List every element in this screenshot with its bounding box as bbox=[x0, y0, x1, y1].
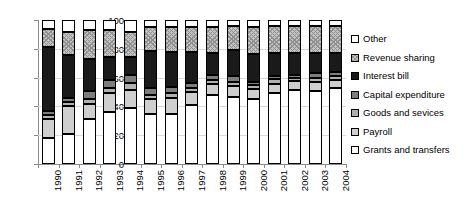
stacked-bar[interactable] bbox=[247, 20, 260, 164]
bar-segment[interactable] bbox=[124, 83, 137, 89]
bar-segment[interactable] bbox=[83, 30, 96, 59]
legend-item[interactable]: Other bbox=[351, 30, 468, 49]
stacked-bar[interactable] bbox=[268, 20, 281, 164]
bar-segment[interactable] bbox=[329, 72, 342, 76]
bar-segment[interactable] bbox=[185, 83, 198, 87]
bar-segment[interactable] bbox=[83, 119, 96, 164]
bar-segment[interactable] bbox=[206, 20, 219, 27]
bar-segment[interactable] bbox=[124, 57, 137, 76]
stacked-bar[interactable] bbox=[309, 20, 322, 164]
bar-segment[interactable] bbox=[165, 114, 178, 164]
bar-segment[interactable] bbox=[144, 20, 157, 27]
bar-segment[interactable] bbox=[309, 82, 322, 91]
bar-segment[interactable] bbox=[206, 53, 219, 75]
bar-segment[interactable] bbox=[309, 26, 322, 53]
bar-segment[interactable] bbox=[185, 27, 198, 51]
bar-segment[interactable] bbox=[144, 88, 157, 95]
bar-segment[interactable] bbox=[268, 20, 281, 26]
bar-segment[interactable] bbox=[185, 105, 198, 164]
bar-segment[interactable] bbox=[124, 90, 137, 108]
bar-segment[interactable] bbox=[42, 20, 55, 29]
stacked-bar[interactable] bbox=[83, 20, 96, 164]
bar-segment[interactable] bbox=[227, 86, 240, 97]
bar-segment[interactable] bbox=[288, 78, 301, 82]
bar-segment[interactable] bbox=[144, 95, 157, 99]
stacked-bar[interactable] bbox=[103, 20, 116, 164]
bar-segment[interactable] bbox=[42, 119, 55, 138]
bar-segment[interactable] bbox=[288, 26, 301, 53]
bar-segment[interactable] bbox=[247, 27, 260, 54]
bar-segment[interactable] bbox=[62, 106, 75, 134]
bar-segment[interactable] bbox=[124, 108, 137, 164]
bar-segment[interactable] bbox=[124, 20, 137, 32]
stacked-bar[interactable] bbox=[42, 20, 55, 164]
bar-segment[interactable] bbox=[103, 112, 116, 164]
bar-segment[interactable] bbox=[83, 91, 96, 100]
bar-segment[interactable] bbox=[247, 89, 260, 99]
bar-segment[interactable] bbox=[268, 93, 281, 164]
bar-segment[interactable] bbox=[144, 99, 157, 114]
bar-segment[interactable] bbox=[268, 76, 281, 79]
bar-segment[interactable] bbox=[227, 20, 240, 26]
bar-segment[interactable] bbox=[329, 80, 342, 89]
bar-segment[interactable] bbox=[42, 111, 55, 115]
bar-segment[interactable] bbox=[227, 82, 240, 86]
bar-segment[interactable] bbox=[165, 52, 178, 87]
bar-segment[interactable] bbox=[268, 79, 281, 84]
bar-segment[interactable] bbox=[185, 20, 198, 27]
stacked-bar[interactable] bbox=[62, 20, 75, 164]
bar-segment[interactable] bbox=[309, 78, 322, 82]
bar-segment[interactable] bbox=[185, 52, 198, 84]
bar-segment[interactable] bbox=[185, 88, 198, 92]
bar-segment[interactable] bbox=[206, 84, 219, 95]
bar-segment[interactable] bbox=[165, 93, 178, 98]
bar-segment[interactable] bbox=[62, 98, 75, 102]
bar-segment[interactable] bbox=[185, 92, 198, 105]
bar-segment[interactable] bbox=[288, 75, 301, 78]
bar-segment[interactable] bbox=[165, 87, 178, 93]
bar-segment[interactable] bbox=[62, 20, 75, 32]
stacked-bar[interactable] bbox=[165, 20, 178, 164]
bar-segment[interactable] bbox=[247, 85, 260, 89]
legend-item[interactable]: Grants and transfers bbox=[351, 141, 468, 160]
stacked-bar[interactable] bbox=[206, 20, 219, 164]
bar-segment[interactable] bbox=[288, 90, 301, 164]
bar-segment[interactable] bbox=[103, 20, 116, 30]
bar-segment[interactable] bbox=[83, 99, 96, 104]
bar-segment[interactable] bbox=[288, 53, 301, 75]
bar-segment[interactable] bbox=[227, 76, 240, 82]
legend-item[interactable]: Payroll bbox=[351, 123, 468, 142]
bar-segment[interactable] bbox=[124, 75, 137, 83]
bar-segment[interactable] bbox=[227, 26, 240, 50]
bar-segment[interactable] bbox=[42, 115, 55, 119]
bar-segment[interactable] bbox=[268, 84, 281, 93]
bar-segment[interactable] bbox=[62, 55, 75, 97]
bar-segment[interactable] bbox=[103, 57, 116, 79]
bar-segment[interactable] bbox=[268, 53, 281, 76]
bar-segment[interactable] bbox=[62, 32, 75, 56]
bar-segment[interactable] bbox=[329, 88, 342, 164]
bar-segment[interactable] bbox=[42, 47, 55, 111]
bar-segment[interactable] bbox=[144, 51, 157, 88]
bar-segment[interactable] bbox=[206, 75, 219, 80]
legend-item[interactable]: Goods and sevices bbox=[351, 104, 468, 123]
legend-item[interactable]: Capital expenditure bbox=[351, 86, 468, 105]
bar-segment[interactable] bbox=[103, 80, 116, 88]
bar-segment[interactable] bbox=[62, 102, 75, 106]
stacked-bar[interactable] bbox=[288, 20, 301, 164]
bar-segment[interactable] bbox=[227, 50, 240, 76]
bar-segment[interactable] bbox=[206, 80, 219, 84]
bar-segment[interactable] bbox=[329, 26, 342, 53]
bar-segment[interactable] bbox=[42, 138, 55, 164]
bar-segment[interactable] bbox=[329, 20, 342, 26]
bar-segment[interactable] bbox=[144, 114, 157, 164]
legend-item[interactable]: Interest bill bbox=[351, 67, 468, 86]
bar-segment[interactable] bbox=[247, 54, 260, 82]
bar-segment[interactable] bbox=[144, 27, 157, 51]
bar-segment[interactable] bbox=[309, 53, 322, 73]
stacked-bar[interactable] bbox=[144, 20, 157, 164]
bar-segment[interactable] bbox=[83, 104, 96, 119]
bar-segment[interactable] bbox=[165, 20, 178, 27]
stacked-bar[interactable] bbox=[227, 20, 240, 164]
bar-segment[interactable] bbox=[309, 91, 322, 164]
